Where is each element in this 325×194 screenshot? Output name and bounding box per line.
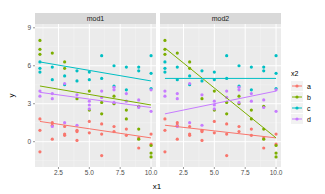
data-point-a [112, 125, 115, 128]
data-point-c [163, 67, 166, 70]
data-point-c [274, 72, 277, 75]
data-point-b [163, 39, 166, 42]
data-point-a [225, 132, 228, 135]
data-point-c [200, 69, 203, 72]
data-point-c [51, 65, 54, 68]
data-point-c [125, 88, 128, 91]
data-point-b [137, 127, 140, 130]
data-point-d [75, 93, 78, 96]
data-point-d [176, 92, 179, 95]
data-point-d [63, 121, 66, 124]
data-point-a [237, 130, 240, 133]
data-point-c [176, 65, 179, 68]
data-point-a [250, 127, 253, 130]
data-point-a [188, 134, 191, 137]
data-point-d [200, 124, 203, 127]
data-point-b [100, 112, 103, 115]
data-point-a [75, 139, 78, 142]
data-point-d [163, 95, 166, 98]
data-point-c [38, 70, 41, 73]
data-point-b [213, 89, 216, 92]
data-point-a [163, 129, 166, 132]
y-tick-label: 3 [27, 100, 31, 107]
x-tick-label: 10.0 [270, 169, 283, 176]
data-point-a [38, 117, 41, 120]
data-point-c [63, 74, 66, 77]
data-point-b [188, 60, 191, 63]
data-point-c [137, 65, 140, 68]
data-point-d [237, 88, 240, 91]
data-point-c [200, 79, 203, 82]
data-point-b [137, 138, 140, 141]
data-point-d [237, 101, 240, 104]
data-point-a [100, 122, 103, 125]
data-point-b [38, 39, 41, 42]
data-point-b [149, 144, 152, 147]
data-point-d [176, 97, 179, 100]
data-point-b [51, 52, 54, 55]
data-point-b [63, 60, 66, 63]
legend-label: d [307, 116, 311, 123]
data-point-a [88, 131, 91, 134]
data-point-d [125, 92, 128, 95]
legend-key-b [291, 92, 303, 102]
data-point-d [225, 89, 228, 92]
data-point-c [38, 67, 41, 70]
panel-background [160, 24, 281, 167]
data-point-a [225, 154, 228, 157]
data-point-b [63, 67, 66, 70]
data-point-b [125, 108, 128, 111]
data-point-c [250, 65, 253, 68]
data-point-b [262, 138, 265, 141]
data-point-c [112, 64, 115, 67]
data-point-a [38, 129, 41, 132]
data-point-b [88, 89, 91, 92]
legend-key-c [291, 103, 303, 113]
facet-label: mod1 [87, 15, 105, 22]
data-point-a [38, 150, 41, 153]
data-point-b [38, 53, 41, 56]
data-point-d [213, 100, 216, 103]
data-point-c [163, 70, 166, 73]
data-point-d [88, 107, 91, 110]
facet-mod1: mod1 [35, 13, 156, 167]
data-point-d [188, 82, 191, 85]
data-point-c [250, 88, 253, 91]
data-point-d [163, 89, 166, 92]
data-point-a [200, 130, 203, 133]
data-point-a [100, 154, 103, 157]
data-point-d [137, 98, 140, 101]
data-point-b [250, 108, 253, 111]
data-point-b [274, 151, 277, 154]
data-point-d [51, 125, 54, 128]
y-axis-title: y [7, 94, 16, 98]
data-point-c [188, 74, 191, 77]
data-point-d [149, 110, 152, 113]
data-point-d [88, 100, 91, 103]
data-point-c [274, 54, 277, 57]
data-point-b [163, 53, 166, 56]
data-point-a [51, 138, 54, 141]
legend: x2abcd [291, 70, 311, 124]
data-point-a [137, 146, 140, 149]
data-point-d [262, 98, 265, 101]
data-point-a [88, 120, 91, 123]
data-point-c [125, 65, 128, 68]
data-point-c [213, 70, 216, 73]
x-tick-label: 2.5 [54, 169, 63, 176]
data-point-a [100, 132, 103, 135]
data-point-c [225, 54, 228, 57]
x-tick-label: 5.0 [210, 169, 219, 176]
legend-key-d [291, 114, 303, 124]
data-point-d [274, 110, 277, 113]
legend-label: c [307, 105, 311, 112]
data-point-c [149, 72, 152, 75]
data-point-c [100, 77, 103, 80]
data-point-c [75, 79, 78, 82]
data-point-a [274, 132, 277, 135]
data-point-b [225, 112, 228, 115]
data-point-d [188, 121, 191, 124]
y-tick-label: 0 [27, 138, 31, 145]
legend-title: x2 [291, 70, 299, 77]
data-point-a [262, 146, 265, 149]
